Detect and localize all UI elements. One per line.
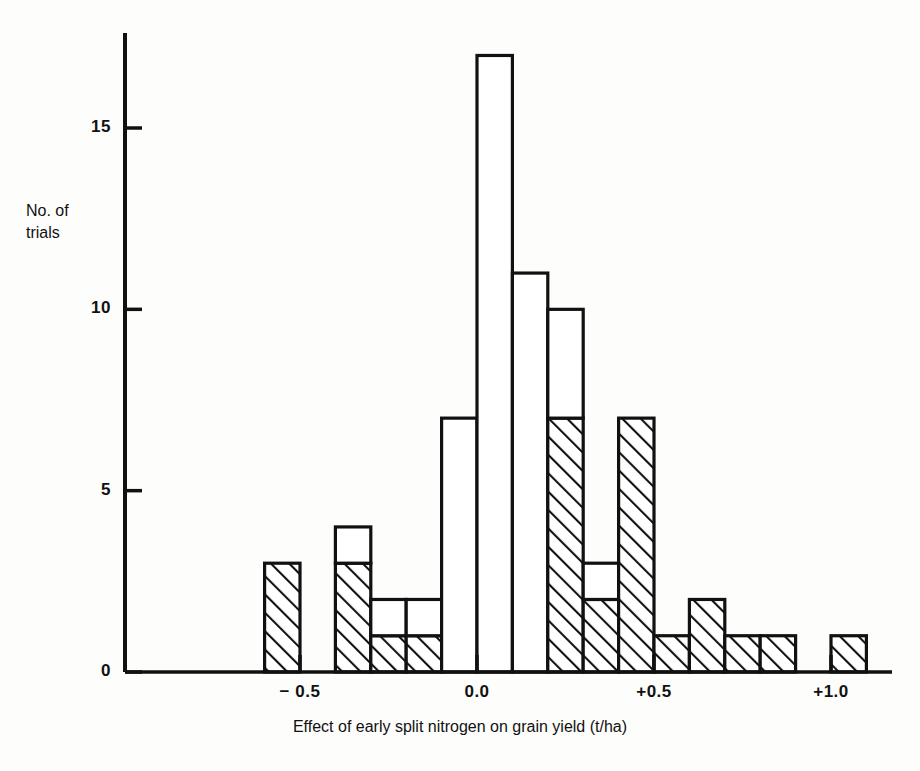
histogram-bar[interactable] [442, 418, 477, 672]
bar-segment-open [583, 563, 618, 599]
bar-segment-open [512, 273, 547, 672]
histogram-bar[interactable] [689, 599, 724, 672]
plot-area [0, 0, 920, 771]
histogram-bar[interactable] [512, 273, 547, 672]
y-axis-tick-label: 15 [51, 117, 111, 137]
bar-segment-open [548, 309, 583, 418]
bar-segment-hatched [654, 636, 689, 672]
bar-segment-hatched [689, 599, 724, 672]
histogram-bar[interactable] [406, 599, 441, 672]
histogram-bar[interactable] [477, 55, 512, 672]
bar-segment-hatched [406, 636, 441, 672]
bar-segment-hatched [548, 418, 583, 672]
y-axis-ticks [125, 128, 142, 672]
histogram-bar[interactable] [371, 599, 406, 672]
y-axis-tick-label: 5 [51, 480, 111, 500]
bar-segment-hatched [725, 636, 760, 672]
histogram-bar[interactable] [831, 636, 866, 672]
bar-segment-hatched [583, 599, 618, 672]
x-axis-tick-label: − 0.5 [240, 682, 360, 702]
bar-segment-hatched [335, 563, 370, 672]
bar-segment-open [371, 599, 406, 635]
bar-segment-hatched [619, 418, 654, 672]
bar-segment-open [442, 418, 477, 672]
y-axis-tick-label: 0 [51, 661, 111, 681]
histogram-bar[interactable] [619, 418, 654, 672]
bar-segment-open [335, 527, 370, 563]
x-axis-tick-label: +0.5 [594, 682, 714, 702]
y-axis-tick-label: 10 [51, 298, 111, 318]
histogram-bar[interactable] [654, 636, 689, 672]
bar-segment-hatched [831, 636, 866, 672]
x-axis-tick-label: +1.0 [771, 682, 891, 702]
histogram-bar[interactable] [760, 636, 795, 672]
bar-segment-hatched [371, 636, 406, 672]
y-axis-title: No. of trials [26, 200, 69, 243]
bar-segment-hatched [760, 636, 795, 672]
x-axis-title: Effect of early split nitrogen on grain … [0, 718, 920, 736]
x-axis-tick-label: 0.0 [417, 682, 537, 702]
histogram-bar[interactable] [583, 563, 618, 672]
histogram-bar[interactable] [265, 563, 300, 672]
histogram-figure: No. of trials 051015− 0.50.0+0.5+1.0 Eff… [0, 0, 920, 771]
bars-layer [265, 55, 867, 672]
bar-segment-open [477, 55, 512, 672]
bar-segment-open [406, 599, 441, 635]
histogram-bar[interactable] [335, 527, 370, 672]
bar-segment-hatched [265, 563, 300, 672]
histogram-bar[interactable] [548, 309, 583, 672]
histogram-bar[interactable] [725, 636, 760, 672]
